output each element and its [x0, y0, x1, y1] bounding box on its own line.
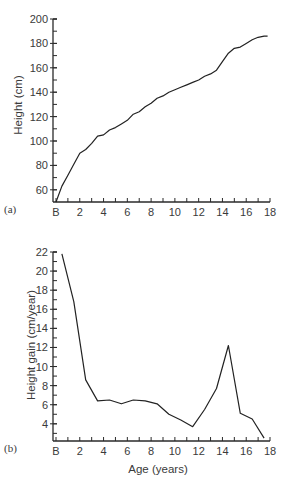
- y-tick-label: 200: [30, 13, 48, 25]
- y-tick-label: 12: [36, 341, 48, 353]
- y-tick-label: 100: [30, 135, 48, 147]
- x-tick-label: 2: [77, 445, 83, 457]
- y-tick-label: 20: [36, 265, 48, 277]
- x-tick-label: 8: [148, 206, 154, 218]
- x-tick-label: 18: [264, 206, 276, 218]
- x-tick-label: 6: [124, 206, 130, 218]
- x-tick-label: 8: [148, 445, 154, 457]
- height-chart: 6080100120140160180200B24681012141618Hei…: [4, 13, 276, 218]
- x-axis-title: Age (years): [128, 463, 188, 475]
- y-tick-label: 16: [36, 303, 48, 315]
- series-line: [62, 254, 264, 438]
- panel-label: (a): [4, 203, 17, 216]
- y-tick-label: 18: [36, 284, 48, 296]
- y-tick-label: 10: [36, 361, 48, 373]
- x-tick-label: B: [52, 206, 59, 218]
- x-tick-label: 4: [100, 445, 106, 457]
- series-line: [56, 36, 268, 202]
- y-tick-label: 4: [42, 418, 48, 430]
- panel-label: (b): [4, 442, 17, 455]
- x-tick-label: 4: [100, 206, 106, 218]
- x-tick-label: 14: [216, 445, 228, 457]
- y-tick-label: 80: [36, 159, 48, 171]
- x-tick-label: 10: [169, 445, 181, 457]
- x-tick-label: 12: [193, 206, 205, 218]
- y-tick-label: 180: [30, 37, 48, 49]
- y-axis-title: Height gain (cm/year): [25, 290, 37, 400]
- x-tick-label: 10: [169, 206, 181, 218]
- height-gain-chart: 46810121416182022B24681012141618Height g…: [4, 246, 276, 475]
- y-tick-label: 60: [36, 184, 48, 196]
- x-tick-label: 14: [216, 206, 228, 218]
- y-axis-title: Height (cm): [12, 75, 24, 135]
- y-tick-label: 22: [36, 246, 48, 258]
- y-tick-label: 6: [42, 399, 48, 411]
- x-tick-label: 16: [240, 206, 252, 218]
- y-tick-label: 8: [42, 380, 48, 392]
- x-tick-label: 18: [264, 445, 276, 457]
- x-tick-label: 2: [77, 206, 83, 218]
- x-tick-label: 12: [193, 445, 205, 457]
- x-tick-label: B: [52, 445, 59, 457]
- y-tick-label: 120: [30, 111, 48, 123]
- growth-charts: 6080100120140160180200B24681012141618Hei…: [0, 0, 290, 487]
- y-tick-label: 14: [36, 322, 48, 334]
- y-tick-label: 140: [30, 86, 48, 98]
- x-tick-label: 6: [124, 445, 130, 457]
- y-tick-label: 160: [30, 62, 48, 74]
- x-tick-label: 16: [240, 445, 252, 457]
